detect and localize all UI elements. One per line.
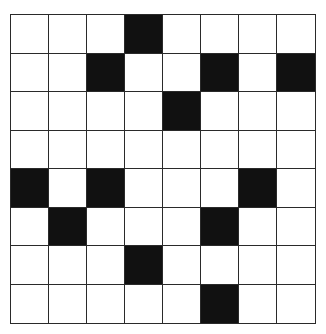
grid-cell-empty[interactable] bbox=[49, 131, 87, 170]
grid-cell-empty[interactable] bbox=[163, 131, 201, 170]
grid-cell-empty[interactable] bbox=[163, 15, 201, 54]
grid-cell-empty[interactable] bbox=[11, 15, 49, 54]
grid-cell-empty[interactable] bbox=[125, 169, 163, 208]
grid-cell-empty[interactable] bbox=[49, 15, 87, 54]
grid-cell-empty[interactable] bbox=[277, 169, 315, 208]
grid-cell-empty[interactable] bbox=[201, 92, 239, 131]
grid-cell-empty[interactable] bbox=[277, 208, 315, 247]
grid-cell-empty[interactable] bbox=[277, 131, 315, 170]
grid-cell-empty[interactable] bbox=[87, 15, 125, 54]
grid-cell-filled[interactable] bbox=[125, 246, 163, 285]
grid-cell-empty[interactable] bbox=[87, 131, 125, 170]
grid-cell-empty[interactable] bbox=[125, 54, 163, 93]
grid-cell-empty[interactable] bbox=[163, 54, 201, 93]
grid-cell-empty[interactable] bbox=[239, 246, 277, 285]
grid-cell-filled[interactable] bbox=[201, 54, 239, 93]
grid-cell-empty[interactable] bbox=[277, 285, 315, 324]
grid-cell-empty[interactable] bbox=[277, 246, 315, 285]
grid-cell-empty[interactable] bbox=[11, 54, 49, 93]
grid-cell-empty[interactable] bbox=[11, 246, 49, 285]
grid-cell-empty[interactable] bbox=[87, 246, 125, 285]
grid-cell-empty[interactable] bbox=[163, 169, 201, 208]
grid-cell-filled[interactable] bbox=[11, 169, 49, 208]
grid-cell-filled[interactable] bbox=[163, 92, 201, 131]
grid-cell-filled[interactable] bbox=[201, 285, 239, 324]
grid-cell-filled[interactable] bbox=[239, 169, 277, 208]
grid-cell-empty[interactable] bbox=[49, 246, 87, 285]
grid-cell-empty[interactable] bbox=[11, 208, 49, 247]
grid-cell-empty[interactable] bbox=[239, 54, 277, 93]
grid-cell-empty[interactable] bbox=[163, 208, 201, 247]
grid-cell-empty[interactable] bbox=[87, 92, 125, 131]
grid-cell-empty[interactable] bbox=[239, 285, 277, 324]
grid-cell-empty[interactable] bbox=[239, 131, 277, 170]
grid-cell-empty[interactable] bbox=[11, 131, 49, 170]
grid-cell-empty[interactable] bbox=[201, 246, 239, 285]
grid-cell-empty[interactable] bbox=[277, 92, 315, 131]
grid-cell-empty[interactable] bbox=[201, 15, 239, 54]
grid-cell-empty[interactable] bbox=[49, 54, 87, 93]
grid-cell-filled[interactable] bbox=[277, 54, 315, 93]
grid-cell-filled[interactable] bbox=[87, 54, 125, 93]
grid-cell-empty[interactable] bbox=[125, 92, 163, 131]
grid-cell-empty[interactable] bbox=[125, 285, 163, 324]
grid-cell-empty[interactable] bbox=[49, 285, 87, 324]
puzzle-grid bbox=[10, 14, 316, 324]
grid-cell-empty[interactable] bbox=[201, 169, 239, 208]
grid-cell-filled[interactable] bbox=[201, 208, 239, 247]
grid-cell-empty[interactable] bbox=[49, 169, 87, 208]
grid-cell-empty[interactable] bbox=[87, 285, 125, 324]
grid-cell-empty[interactable] bbox=[11, 285, 49, 324]
grid-cell-empty[interactable] bbox=[87, 208, 125, 247]
grid-cell-empty[interactable] bbox=[201, 131, 239, 170]
grid-cell-empty[interactable] bbox=[49, 92, 87, 131]
grid-cell-filled[interactable] bbox=[125, 15, 163, 54]
grid-cell-filled[interactable] bbox=[87, 169, 125, 208]
grid-cell-empty[interactable] bbox=[11, 92, 49, 131]
grid-cell-empty[interactable] bbox=[239, 92, 277, 131]
grid-cell-empty[interactable] bbox=[163, 285, 201, 324]
grid-cell-empty[interactable] bbox=[125, 208, 163, 247]
grid-cell-empty[interactable] bbox=[125, 131, 163, 170]
grid-cell-empty[interactable] bbox=[239, 15, 277, 54]
grid-cell-filled[interactable] bbox=[49, 208, 87, 247]
grid-cell-empty[interactable] bbox=[239, 208, 277, 247]
grid-cell-empty[interactable] bbox=[163, 246, 201, 285]
grid-cell-empty[interactable] bbox=[277, 15, 315, 54]
